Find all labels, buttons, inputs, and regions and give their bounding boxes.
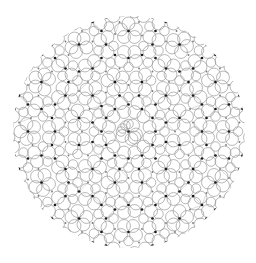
vertex-dot	[178, 117, 181, 120]
vertex-dot	[127, 157, 130, 160]
vertex-dot	[54, 130, 57, 133]
vertex-dot	[205, 117, 208, 120]
vertex-dot	[128, 84, 130, 86]
vertex-dot	[87, 81, 89, 83]
vertex-dot	[92, 222, 94, 224]
vertex-dot	[64, 168, 67, 171]
vertex-dot	[105, 144, 108, 147]
vertex-dot	[68, 54, 70, 56]
vertex-dot	[228, 103, 231, 106]
vertex-dot	[105, 71, 107, 73]
vertex-dot	[141, 54, 144, 57]
vertex-dot	[176, 30, 178, 32]
vertex-dot	[81, 231, 83, 233]
vertex-dot	[141, 228, 143, 230]
vertex-dot	[114, 228, 116, 230]
vertex-dot	[168, 155, 170, 157]
vertex-dot	[138, 242, 140, 244]
vertex-dot	[78, 43, 81, 46]
vertex-dot	[168, 108, 170, 110]
vertex-dot	[219, 195, 221, 197]
vertex-dot	[38, 195, 40, 197]
vertex-dot	[127, 130, 130, 133]
vertex-dot	[40, 154, 43, 157]
vertex-dot	[201, 130, 204, 133]
vertex-dot	[154, 157, 157, 160]
vertex-dot	[119, 242, 121, 244]
vertex-dot	[201, 57, 204, 60]
vertex-dot	[54, 103, 57, 106]
vertex-dot	[141, 181, 144, 184]
vertex-dot	[27, 130, 30, 133]
vertex-dot	[151, 43, 154, 46]
vertex-dot	[114, 54, 117, 57]
vertex-dot	[100, 157, 103, 160]
vertex-dot	[225, 144, 227, 146]
vertex-dot	[127, 231, 130, 234]
vertex-dot	[78, 117, 81, 120]
vertex-dot	[92, 41, 94, 43]
quasicrystal-disc	[0, 0, 256, 263]
vertex-dot	[119, 68, 121, 70]
vertex-dot	[192, 122, 194, 124]
vertex-dot	[114, 154, 117, 157]
vertex-dot	[151, 117, 154, 120]
vertex-dot	[214, 108, 217, 111]
vertex-dot	[100, 204, 103, 207]
vertex-dot	[127, 57, 130, 60]
vertex-dot	[154, 57, 157, 60]
vertex-dot	[38, 68, 40, 70]
vertex-dot	[68, 209, 70, 211]
vertex-dot	[219, 95, 221, 97]
vertex-dot	[178, 70, 181, 73]
vertex-dot	[40, 181, 43, 184]
vertex-dot	[27, 84, 29, 86]
vertex-dot	[168, 182, 170, 184]
vertex-dot	[68, 108, 70, 110]
vertex-dot	[192, 141, 194, 143]
vertex-dot	[228, 177, 230, 179]
vertex-dot	[65, 222, 67, 224]
vertex-dot	[127, 30, 130, 33]
vertex-dot	[228, 157, 231, 160]
vertex-dot	[114, 81, 117, 84]
vertex-dot	[192, 94, 195, 97]
vertex-dot	[138, 94, 141, 97]
vertex-dot	[118, 168, 121, 171]
vertex-dot	[192, 195, 195, 198]
vertex-dot	[138, 168, 141, 171]
vertex-dot	[192, 168, 195, 171]
vertex-dot	[138, 68, 140, 70]
vertex-dot	[64, 67, 67, 70]
vertex-dot	[64, 94, 67, 97]
vertex-dot	[78, 90, 80, 92]
vertex-dot	[119, 195, 121, 197]
vertex-dot	[51, 71, 53, 73]
vertex-dot	[152, 90, 154, 92]
vertex-dot	[189, 209, 191, 211]
vertex-dot	[78, 70, 81, 73]
vertex-dot	[91, 67, 94, 70]
vertex-dot	[105, 217, 108, 220]
vertex-dot	[152, 71, 154, 73]
vertex-dot	[38, 168, 40, 170]
vertex-dot	[187, 181, 190, 184]
vertex-dot	[105, 117, 108, 120]
vertex-dot	[165, 41, 167, 43]
vertex-dot	[114, 208, 117, 211]
vertex-dot	[127, 204, 130, 207]
vertex-dot	[128, 177, 130, 179]
vertex-dot	[214, 154, 217, 157]
vertex-dot	[105, 171, 107, 173]
vertex-dot	[40, 81, 43, 84]
vertex-dot	[51, 144, 54, 147]
vertex-dot	[165, 67, 168, 70]
vertex-dot	[151, 217, 154, 220]
vertex-dot	[18, 122, 20, 124]
vertex-dot	[141, 208, 144, 211]
vertex-dot	[179, 171, 181, 173]
vertex-dot	[192, 67, 195, 70]
vertex-dot	[165, 195, 168, 198]
vertex-dot	[141, 154, 144, 157]
vertex-dot	[188, 155, 190, 157]
